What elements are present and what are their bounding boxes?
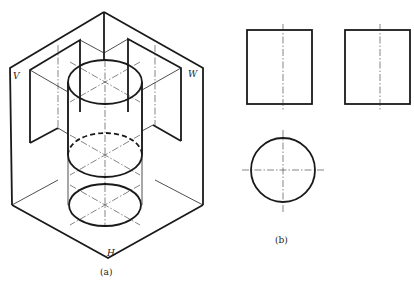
side-view-rectangle: [345, 30, 410, 104]
label-w: W: [188, 69, 198, 79]
three-view-projection-diagram: V W H (a) (b): [0, 0, 414, 281]
h-plane-back-right: [155, 180, 203, 205]
inner-left-proj: [80, 40, 104, 53]
inner-right-frame-bottom: [153, 125, 181, 141]
projection-line: [142, 68, 181, 90]
label-v: V: [13, 71, 21, 81]
figure-b-orthographic: (b): [242, 24, 410, 245]
caption-b: (b): [275, 235, 288, 245]
caption-a: (a): [100, 267, 112, 277]
projection-line: [142, 125, 153, 131]
h-plane-back-left: [12, 180, 58, 205]
label-h: H: [106, 248, 115, 258]
inner-right-proj: [104, 39, 128, 53]
figure-a-isometric: V W H (a): [10, 12, 203, 277]
front-view-rectangle: [247, 30, 312, 104]
inner-left-frame-bottom: [30, 128, 58, 143]
projection-line: [58, 128, 68, 134]
projection-line: [30, 70, 68, 92]
